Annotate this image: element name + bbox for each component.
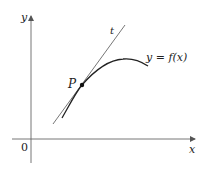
point-p-label: P	[67, 77, 77, 91]
tangent-label: t	[110, 25, 115, 36]
tangent-diagram: y x 0 t y = f(x) P	[0, 0, 210, 175]
tangent-line	[53, 25, 125, 124]
point-p	[80, 83, 84, 87]
curve-label: y = f(x)	[145, 51, 187, 64]
origin-label: 0	[21, 141, 28, 154]
x-axis-label: x	[189, 143, 196, 156]
y-axis-label: y	[20, 11, 28, 24]
